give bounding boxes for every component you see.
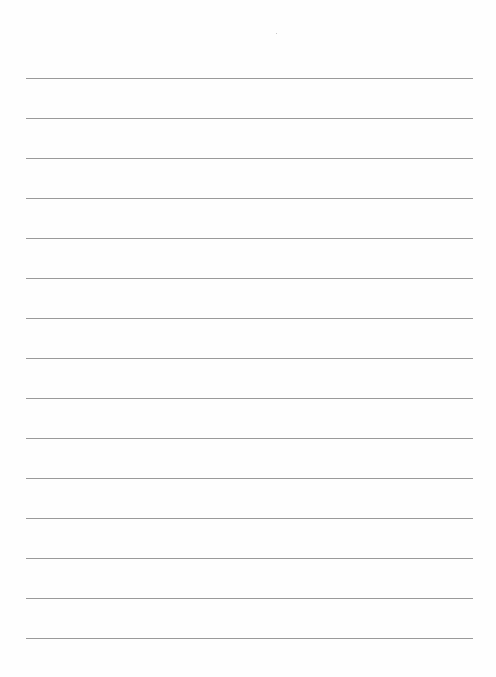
ruled-line <box>26 398 473 399</box>
ruled-line <box>26 438 473 439</box>
ruled-line <box>26 158 473 159</box>
ruled-line <box>26 118 473 119</box>
ruled-line <box>26 278 473 279</box>
ruled-line <box>26 638 473 639</box>
ruled-line <box>26 478 473 479</box>
ruled-line <box>26 358 473 359</box>
ruled-line <box>26 198 473 199</box>
speck <box>276 33 277 34</box>
ruled-line <box>26 78 473 79</box>
ruled-line <box>26 518 473 519</box>
ruled-line <box>26 558 473 559</box>
lined-paper-page <box>0 0 496 677</box>
ruled-line <box>26 318 473 319</box>
ruled-line <box>26 598 473 599</box>
ruled-line <box>26 238 473 239</box>
